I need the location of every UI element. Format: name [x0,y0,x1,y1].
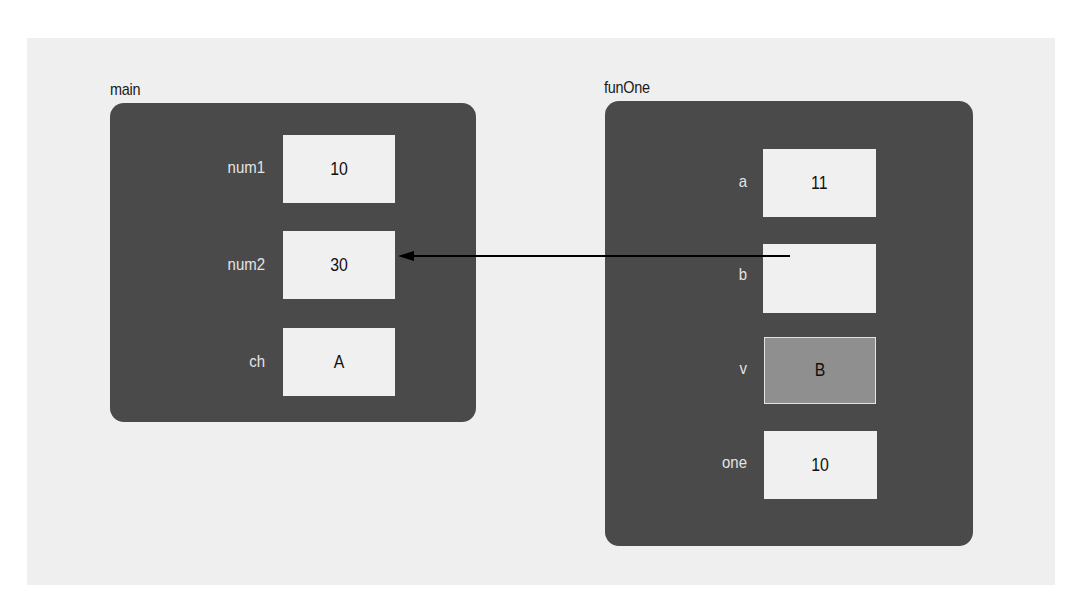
cell-value-num1: 10 [330,159,348,180]
cell-value-a: 11 [811,173,827,194]
var-label-b: b [677,265,747,285]
main-frame-title: main [110,80,140,100]
cell-one: 10 [764,431,877,499]
var-label-v: v [677,359,747,379]
var-label-a: a [677,172,747,192]
cell-num2: 30 [283,231,395,299]
cell-value-ch: A [334,352,345,373]
cell-num1: 10 [283,135,395,203]
cell-b [763,244,876,313]
funone-frame-title: funOne [604,78,650,98]
var-label-num2: num2 [195,255,265,275]
cell-v-highlighted: B [764,337,876,404]
cell-ch: A [283,328,395,396]
var-label-ch: ch [195,352,265,372]
var-label-num1: num1 [195,158,265,178]
cell-value-num2: 30 [330,255,348,276]
cell-a: 11 [763,149,876,217]
cell-value-v: B [815,360,826,381]
var-label-one: one [677,453,747,473]
cell-value-one: 10 [812,455,830,476]
